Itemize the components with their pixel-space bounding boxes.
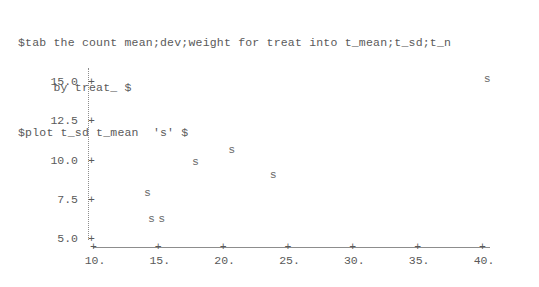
x-tick-label: 30. (341, 255, 367, 267)
data-point-marker: s (158, 213, 165, 225)
x-tick-mark: + (414, 241, 421, 253)
y-tick-mark: + (88, 194, 95, 206)
x-tick-label: 10. (82, 255, 108, 267)
x-tick-mark: + (349, 241, 356, 253)
x-tick-label: 15. (147, 255, 173, 267)
data-point-marker: s (144, 188, 151, 200)
x-tick-label: 25. (277, 255, 303, 267)
data-point-marker: s (484, 73, 491, 85)
command-line-1: $tab the count mean;dev;weight for treat… (18, 35, 533, 50)
x-tick-mark: + (479, 241, 486, 253)
y-tick-mark: + (88, 115, 95, 127)
data-point-marker: s (192, 156, 199, 168)
x-tick-label: 40. (471, 255, 497, 267)
y-tick-label: 15.0 (50, 76, 78, 88)
terminal-plot-screen: $tab the count mean;dev;weight for treat… (0, 0, 539, 287)
x-tick-label: 35. (406, 255, 432, 267)
y-tick-mark: + (88, 155, 95, 167)
data-point-marker: s (148, 213, 155, 225)
x-tick-mark: + (155, 241, 162, 253)
y-tick-label: 12.5 (50, 115, 78, 127)
x-tick-label: 20. (212, 255, 238, 267)
x-tick-mark: + (285, 241, 292, 253)
y-tick-label: 10.0 (50, 155, 78, 167)
y-tick-label: 5.0 (57, 233, 78, 245)
x-tick-mark: + (90, 241, 97, 253)
x-tick-mark: + (220, 241, 227, 253)
y-tick-label: 7.5 (57, 194, 78, 206)
data-point-marker: s (228, 144, 235, 156)
data-point-marker: s (270, 169, 277, 181)
x-axis-line (93, 247, 490, 248)
scatter-plot: 5.0+7.5+10.0+12.5+15.0+ +10.+15.+20.+25.… (0, 55, 539, 287)
y-tick-mark: + (88, 76, 95, 88)
